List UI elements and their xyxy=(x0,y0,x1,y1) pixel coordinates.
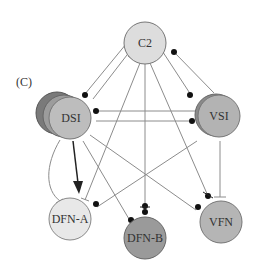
dot-icon xyxy=(195,204,201,210)
node-dfn-a: DFN-A xyxy=(49,198,91,240)
vsi-to-c2-line xyxy=(174,52,214,93)
dot-icon xyxy=(187,92,193,98)
node-dsi: DSI xyxy=(36,92,91,139)
dsi-to-dfna-curve xyxy=(49,140,60,201)
node-c2: C2 xyxy=(124,22,166,64)
node-vfn: VFN xyxy=(200,201,242,243)
node-label: VSI xyxy=(209,109,228,123)
strong-arrow xyxy=(73,141,83,194)
dot-icon xyxy=(82,92,88,98)
dot-icon xyxy=(189,118,195,124)
node-label: VFN xyxy=(209,215,233,229)
dsi-to-vfn-line xyxy=(90,135,196,210)
node-dfn-b: DFN-B xyxy=(124,217,166,259)
inhibitory-dots xyxy=(82,49,211,223)
c2-to-vfn-line xyxy=(150,63,208,196)
dot-icon xyxy=(142,209,148,215)
node-label: DFN-A xyxy=(52,212,89,226)
dsi-to-dfnb-line xyxy=(83,141,129,219)
panel-label: (C) xyxy=(16,75,32,89)
node-label: DFN-B xyxy=(127,231,163,245)
dot-icon xyxy=(142,203,148,209)
arrowhead-icon xyxy=(73,181,83,194)
neural-circuit-diagram: C2 DSI VSI DFN-A DFN-B VFN (C) xyxy=(0,0,260,271)
dfna-bar-terminal-2 xyxy=(81,198,89,201)
dot-icon xyxy=(93,201,99,207)
dot-icon xyxy=(93,108,99,114)
dot-icon xyxy=(171,49,177,55)
bar-ticks xyxy=(140,192,213,207)
node-label: C2 xyxy=(138,36,152,50)
node-label: DSI xyxy=(61,111,80,125)
node-vsi: VSI xyxy=(195,94,240,137)
